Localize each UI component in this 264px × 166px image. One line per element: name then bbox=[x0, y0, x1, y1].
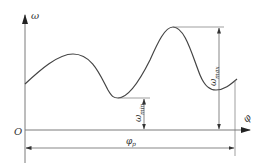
svg-text:min: min bbox=[138, 103, 145, 115]
omega-max-label: ω max bbox=[208, 66, 220, 86]
svg-text:p: p bbox=[132, 140, 136, 148]
angular-velocity-diagram: ω O φ ω min ω max φ p bbox=[0, 0, 264, 166]
svg-text:max: max bbox=[213, 66, 220, 79]
omega-curve bbox=[25, 27, 237, 98]
y-axis-label: ω bbox=[31, 10, 39, 21]
period-label: φ p bbox=[126, 136, 136, 148]
x-axis-label: φ bbox=[240, 112, 253, 125]
omega-min-label: ω min bbox=[133, 103, 145, 122]
origin-label: O bbox=[14, 126, 22, 137]
